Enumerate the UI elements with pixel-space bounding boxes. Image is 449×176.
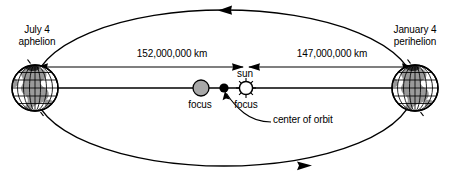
- sun-icon: [236, 78, 256, 98]
- sun-focus-label: focus: [226, 99, 266, 111]
- aphelion-label: July 4 aphelion: [6, 24, 68, 47]
- focus-point-icon: [193, 80, 209, 96]
- center-of-orbit-label: center of orbit: [273, 114, 383, 126]
- orbit-diagram: July 4 aphelion January 4 perihelion 152…: [0, 0, 449, 176]
- perihelion-term: perihelion: [383, 36, 447, 48]
- orbit-direction-arrow-bottom: [297, 161, 312, 170]
- perihelion-date: January 4: [383, 24, 447, 36]
- perihelion-label: January 4 perihelion: [383, 24, 447, 47]
- earth-globe-icon-left: [7, 60, 58, 117]
- earth-globe-icon-right: [387, 60, 438, 117]
- aphelion-distance-label: 152,000,000 km: [112, 48, 232, 60]
- orbit-direction-arrow-top: [218, 6, 232, 15]
- aphelion-date: July 4: [6, 24, 68, 36]
- perihelion-distance-label: 147,000,000 km: [272, 48, 392, 60]
- empty-focus-label: focus: [180, 99, 220, 111]
- center-point-icon: [219, 83, 228, 92]
- sun-label: sun: [228, 68, 262, 80]
- aphelion-term: aphelion: [6, 36, 68, 48]
